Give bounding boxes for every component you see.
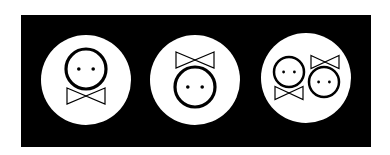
panel-2 (150, 35, 240, 125)
eye-right-icon (200, 85, 204, 89)
panel-3 (261, 33, 351, 123)
eye-left-icon (77, 67, 81, 71)
eye-right-icon (293, 71, 296, 74)
eye-right-icon (91, 67, 95, 71)
white-disc (150, 35, 240, 125)
diagram-canvas (0, 0, 390, 155)
eye-left-icon (317, 81, 320, 84)
panel-1 (41, 35, 131, 125)
eye-right-icon (328, 81, 331, 84)
eye-left-icon (282, 71, 285, 74)
eye-left-icon (186, 85, 190, 89)
